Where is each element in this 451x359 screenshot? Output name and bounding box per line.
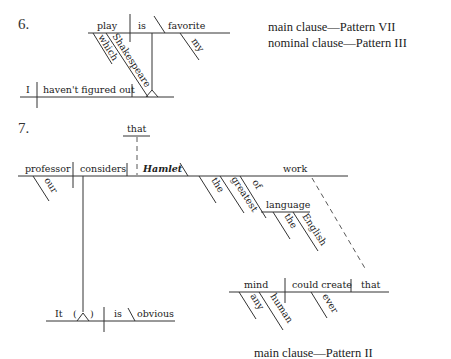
prep-object-language: language bbox=[266, 199, 311, 210]
relative-object: that bbox=[361, 279, 381, 290]
modifier-shakespeare: Shakespeare bbox=[110, 31, 153, 89]
sentence-diagrams: 6. play is favorite my which Shakespeare… bbox=[0, 0, 451, 359]
modifier-our: our bbox=[42, 175, 60, 195]
paren-close: ) bbox=[90, 308, 94, 319]
pattern-label: nominal clause—Pattern III bbox=[268, 36, 407, 50]
diagram-number: 6. bbox=[18, 16, 29, 32]
modifier-my: my bbox=[189, 36, 207, 55]
diagram-6: 6. play is favorite my which Shakespeare… bbox=[18, 14, 407, 108]
diagram-number: 7. bbox=[18, 120, 29, 136]
base-subject: It bbox=[55, 308, 63, 319]
base-verb: is bbox=[114, 308, 122, 319]
pattern-label: main clause—Pattern VII bbox=[268, 20, 396, 34]
nominal-verb: haven't figured out bbox=[43, 84, 135, 95]
main-subject: professor bbox=[25, 163, 71, 174]
base-complement: obvious bbox=[137, 308, 174, 319]
modifier-the-2: the bbox=[282, 211, 300, 230]
complement-divider bbox=[154, 16, 165, 33]
modifier-human: human bbox=[268, 291, 295, 325]
nominal-subject: I bbox=[26, 84, 30, 95]
modifier-the: the bbox=[209, 175, 227, 194]
modifier-any: any bbox=[248, 291, 267, 312]
paren-open: ( bbox=[73, 308, 77, 319]
main-verb: is bbox=[138, 20, 146, 31]
main-object: Hamlet bbox=[142, 163, 183, 174]
expletive-that: that bbox=[127, 123, 147, 134]
relative-subject: mind bbox=[244, 279, 268, 290]
main-verb: considers bbox=[80, 163, 126, 174]
relative-connector bbox=[312, 178, 366, 270]
base-complement-divider bbox=[128, 308, 135, 321]
relative-verb: could create bbox=[292, 279, 352, 290]
preposition-of: of bbox=[250, 177, 265, 192]
main-complement: favorite bbox=[168, 20, 206, 31]
diagram-7: 7. that professor considers Hamlet work … bbox=[18, 120, 389, 359]
pattern-label: main clause—Pattern II bbox=[254, 346, 373, 359]
object-complement: work bbox=[283, 163, 307, 174]
pedestal-caret bbox=[77, 313, 89, 321]
main-subject: play bbox=[97, 20, 118, 31]
